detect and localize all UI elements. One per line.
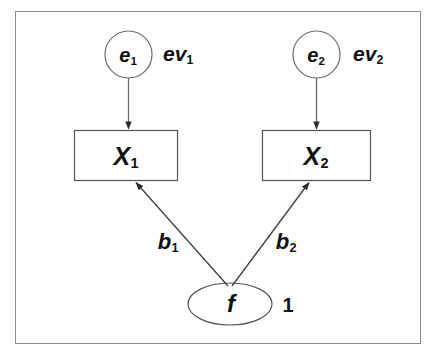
node-factor-label: f (227, 292, 235, 316)
param-error-variance-2-label: ev2 (353, 43, 383, 64)
param-loading-2-label: b2 (276, 231, 297, 253)
node-error-1-label: e1 (119, 45, 137, 65)
edge-factor-to-indicator2[interactable] (232, 183, 309, 287)
node-indicator-1-label: X1 (114, 144, 139, 169)
param-factor-variance-label: 1 (282, 295, 293, 315)
param-loading-1-label: b1 (158, 231, 179, 253)
edge-factor-to-indicator1[interactable] (136, 183, 228, 287)
node-error-2-label: e2 (307, 45, 325, 65)
diagram-canvas: e1 e2 ev1 ev2 X1 X2 b1 b2 f 1 (0, 0, 438, 357)
node-indicator-2-label: X2 (304, 144, 329, 169)
param-error-variance-1-label: ev1 (163, 43, 193, 64)
